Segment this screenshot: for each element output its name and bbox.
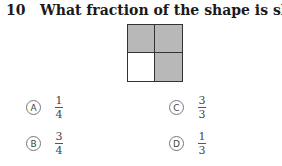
option-a-fraction: 1 4 <box>55 95 63 120</box>
option-b-bubble[interactable]: B <box>26 136 41 151</box>
cell-top-right <box>155 25 182 53</box>
shaded-square-figure <box>127 24 183 82</box>
cell-top-left <box>128 25 155 53</box>
denominator: 3 <box>199 109 206 120</box>
option-a-bubble[interactable]: A <box>26 100 41 115</box>
numerator: 3 <box>199 95 206 106</box>
denominator: 4 <box>56 109 63 120</box>
denominator: 3 <box>199 145 206 156</box>
option-b[interactable]: B 3 4 <box>26 131 63 156</box>
question-text: What fraction of the shape is shaded? <box>40 2 282 18</box>
denominator: 4 <box>56 145 63 156</box>
option-b-fraction: 3 4 <box>55 131 63 156</box>
numerator: 1 <box>56 95 63 106</box>
option-a[interactable]: A 1 4 <box>26 95 63 120</box>
cell-bottom-left <box>128 53 155 81</box>
option-c-bubble[interactable]: C <box>169 100 184 115</box>
numerator: 3 <box>56 131 63 142</box>
option-d[interactable]: D 1 3 <box>169 131 206 156</box>
option-c[interactable]: C 3 3 <box>169 95 206 120</box>
question-number: 10 <box>6 2 25 18</box>
option-d-fraction: 1 3 <box>198 131 206 156</box>
option-c-fraction: 3 3 <box>198 95 206 120</box>
option-d-bubble[interactable]: D <box>169 136 184 151</box>
cell-bottom-right <box>155 53 182 81</box>
numerator: 1 <box>199 131 206 142</box>
